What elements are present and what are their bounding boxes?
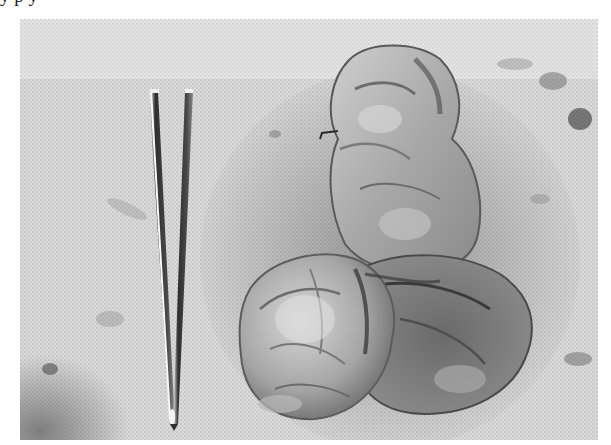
specimen-photograph <box>20 19 598 440</box>
cropped-caption-text: y p y <box>0 0 611 6</box>
